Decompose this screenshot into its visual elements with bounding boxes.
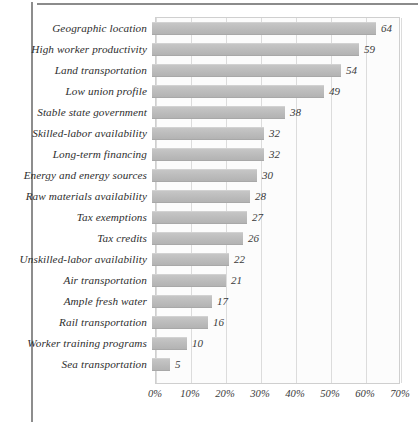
bar-track: 17 bbox=[151, 291, 404, 312]
bar-rows: Geographic location64High worker product… bbox=[0, 12, 408, 384]
bar-row: Skilled-labor availability32 bbox=[0, 123, 408, 144]
bar-track: 27 bbox=[151, 207, 404, 228]
bar-value-label: 64 bbox=[381, 21, 392, 35]
bar-row: Stable state government38 bbox=[0, 102, 408, 123]
bar-value-label: 16 bbox=[213, 315, 224, 329]
bar-track: 16 bbox=[151, 312, 404, 333]
bar bbox=[152, 337, 187, 350]
bar bbox=[152, 106, 285, 119]
bar bbox=[152, 358, 170, 371]
bar bbox=[152, 274, 226, 287]
bar bbox=[152, 169, 257, 182]
category-label: Geographic location bbox=[0, 22, 151, 35]
figure: Geographic location64High worker product… bbox=[0, 0, 418, 422]
bar bbox=[152, 127, 264, 140]
category-label: Long-term financing bbox=[0, 148, 151, 161]
bar bbox=[152, 253, 229, 266]
bar-row: Long-term financing32 bbox=[0, 144, 408, 165]
bar-track: 32 bbox=[151, 123, 404, 144]
bar-track: 5 bbox=[151, 354, 404, 375]
x-axis: 0%10%20%30%40%50%60%70% bbox=[155, 384, 400, 404]
bar-value-label: 10 bbox=[192, 336, 203, 350]
bar-row: Sea transportation5 bbox=[0, 354, 408, 375]
bar-value-label: 22 bbox=[234, 252, 245, 266]
category-label: Low union profile bbox=[0, 85, 151, 98]
bar-value-label: 28 bbox=[255, 189, 266, 203]
bar-track: 26 bbox=[151, 228, 404, 249]
bar-row: Tax credits26 bbox=[0, 228, 408, 249]
category-label: Stable state government bbox=[0, 106, 151, 119]
bar-value-label: 21 bbox=[231, 273, 242, 287]
bar bbox=[152, 316, 208, 329]
category-label: Energy and energy sources bbox=[0, 169, 151, 182]
bar-value-label: 38 bbox=[290, 105, 301, 119]
category-label: Tax exemptions bbox=[0, 211, 151, 224]
bar-row: Air transportation21 bbox=[0, 270, 408, 291]
bar-value-label: 26 bbox=[248, 231, 259, 245]
category-label: Skilled-labor availability bbox=[0, 127, 151, 140]
category-label: Air transportation bbox=[0, 274, 151, 287]
bar-row: Ample fresh water17 bbox=[0, 291, 408, 312]
bar bbox=[152, 232, 243, 245]
category-label: Sea transportation bbox=[0, 358, 151, 371]
bar bbox=[152, 211, 247, 224]
bar bbox=[152, 22, 376, 35]
bar bbox=[152, 295, 212, 308]
x-tick-label: 10% bbox=[180, 388, 199, 399]
x-tick-label: 0% bbox=[148, 388, 162, 399]
bar-value-label: 30 bbox=[262, 168, 273, 182]
bar-row: High worker productivity59 bbox=[0, 39, 408, 60]
bar-chart: Geographic location64High worker product… bbox=[0, 12, 408, 404]
bar-row: Worker training programs10 bbox=[0, 333, 408, 354]
bar-value-label: 5 bbox=[175, 357, 181, 371]
bar-track: 30 bbox=[151, 165, 404, 186]
bar bbox=[152, 64, 341, 77]
bar-track: 28 bbox=[151, 186, 404, 207]
bar-track: 21 bbox=[151, 270, 404, 291]
x-tick-label: 70% bbox=[390, 388, 409, 399]
category-label: Unskilled-labor availability bbox=[0, 253, 151, 266]
x-tick-label: 50% bbox=[320, 388, 339, 399]
bar-value-label: 17 bbox=[217, 294, 228, 308]
bar-row: Raw materials availability28 bbox=[0, 186, 408, 207]
bar bbox=[152, 43, 359, 56]
bar bbox=[152, 190, 250, 203]
bar-row: Low union profile49 bbox=[0, 81, 408, 102]
bar-track: 10 bbox=[151, 333, 404, 354]
bar-value-label: 59 bbox=[364, 42, 375, 56]
bar-track: 32 bbox=[151, 144, 404, 165]
bar bbox=[152, 85, 324, 98]
bar-value-label: 32 bbox=[269, 147, 280, 161]
x-tick-label: 40% bbox=[285, 388, 304, 399]
bar-track: 22 bbox=[151, 249, 404, 270]
bar-row: Tax exemptions27 bbox=[0, 207, 408, 228]
bar-track: 54 bbox=[151, 60, 404, 81]
bar-row: Geographic location64 bbox=[0, 18, 408, 39]
bar-track: 49 bbox=[151, 81, 404, 102]
bar-row: Energy and energy sources30 bbox=[0, 165, 408, 186]
category-label: Land transportation bbox=[0, 64, 151, 77]
x-tick-label: 60% bbox=[355, 388, 374, 399]
category-label: Rail transportation bbox=[0, 316, 151, 329]
bar bbox=[152, 148, 264, 161]
bar-row: Unskilled-labor availability22 bbox=[0, 249, 408, 270]
bar-track: 38 bbox=[151, 102, 404, 123]
x-tick-label: 30% bbox=[250, 388, 269, 399]
bar-value-label: 54 bbox=[346, 63, 357, 77]
bar-row: Land transportation54 bbox=[0, 60, 408, 81]
bar-value-label: 27 bbox=[252, 210, 263, 224]
bar-value-label: 49 bbox=[329, 84, 340, 98]
category-label: Tax credits bbox=[0, 232, 151, 245]
page-top-rule bbox=[37, 3, 418, 5]
category-label: Worker training programs bbox=[0, 337, 151, 350]
category-label: High worker productivity bbox=[0, 43, 151, 56]
x-tick-label: 20% bbox=[215, 388, 234, 399]
bar-track: 64 bbox=[151, 18, 404, 39]
category-label: Ample fresh water bbox=[0, 295, 151, 308]
bar-value-label: 32 bbox=[269, 126, 280, 140]
category-label: Raw materials availability bbox=[0, 190, 151, 203]
bar-track: 59 bbox=[151, 39, 404, 60]
bar-row: Rail transportation16 bbox=[0, 312, 408, 333]
